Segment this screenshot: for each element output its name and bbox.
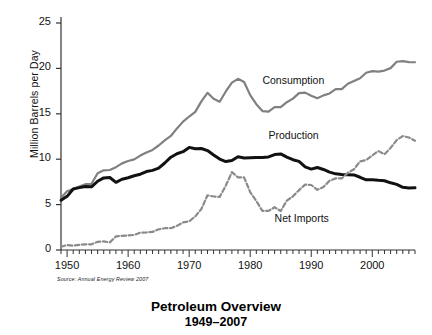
chart-plot-area [0, 0, 432, 335]
chart-source-note: Source: Annual Energy Review 2007 [57, 276, 148, 282]
chart-axes [56, 17, 415, 257]
series-line-production [61, 147, 415, 200]
chart-title: Petroleum Overview [0, 299, 432, 314]
chart-series-lines [61, 61, 415, 247]
series-line-net-imports [61, 136, 415, 247]
chart-container: Million Barrels per Day 0510152025 19501… [0, 0, 432, 335]
chart-subtitle: 1949–2007 [0, 315, 432, 329]
